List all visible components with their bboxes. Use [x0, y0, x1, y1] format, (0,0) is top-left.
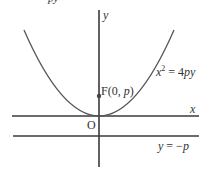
focus-label-prefix: F(0,	[101, 84, 124, 98]
eq-rest: = 4	[165, 65, 184, 79]
focus-label-var: p	[123, 84, 130, 98]
directrix-label: y = −p	[157, 139, 189, 153]
eq-vars: py	[183, 65, 196, 79]
origin-label: O	[87, 118, 96, 132]
directrix-var: p	[182, 139, 189, 153]
focus-label-suffix: )	[130, 84, 134, 98]
parabola-equation: x2 = 4py	[155, 64, 196, 79]
directrix-rest: = −	[163, 139, 183, 153]
parabola-diagram: py y x O F(0, p) x2 = 4py y = −p	[0, 0, 210, 172]
title-fragment: py	[47, 0, 59, 4]
focus-label: F(0, p)	[101, 84, 134, 98]
y-axis-label: y	[102, 8, 109, 22]
x-axis-label: x	[189, 102, 196, 116]
